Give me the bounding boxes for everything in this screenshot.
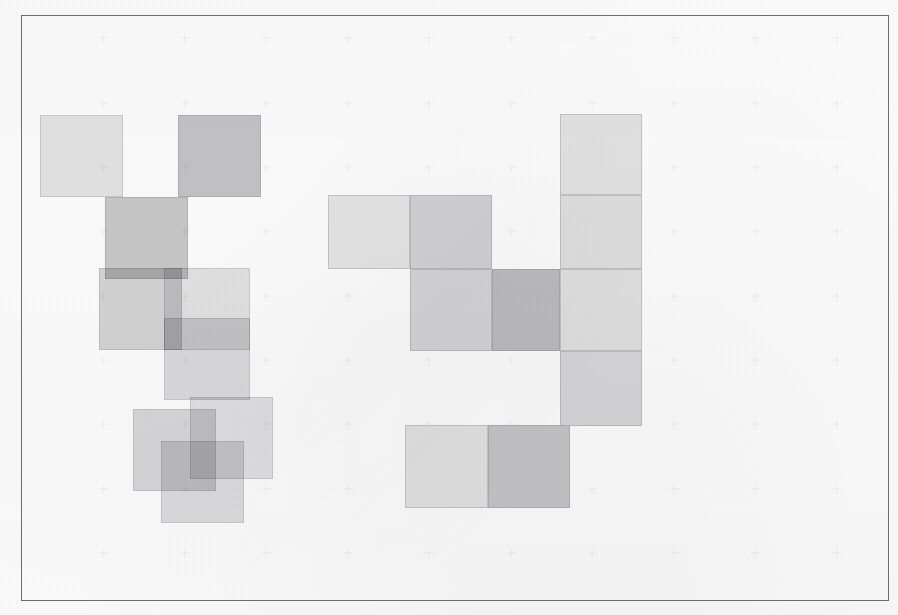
square-tile bbox=[488, 425, 570, 508]
square-tile bbox=[328, 195, 410, 269]
square-tile bbox=[164, 318, 250, 400]
square-tile bbox=[161, 441, 244, 523]
square-tile bbox=[560, 351, 642, 426]
square-tile bbox=[405, 425, 488, 508]
square-tile bbox=[560, 195, 642, 269]
square-tile bbox=[410, 269, 492, 351]
square-tile bbox=[560, 269, 642, 351]
square-tile bbox=[560, 114, 642, 195]
square-tile bbox=[40, 115, 123, 197]
square-tile bbox=[410, 195, 492, 269]
square-tile bbox=[492, 269, 560, 351]
square-tile bbox=[105, 197, 188, 279]
square-tile bbox=[178, 115, 261, 197]
figure-root bbox=[0, 0, 898, 615]
